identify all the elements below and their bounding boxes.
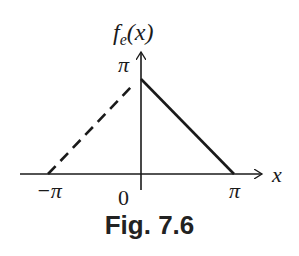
x-axis-label: x xyxy=(271,162,282,187)
x-tick-zero: 0 xyxy=(118,185,129,210)
y-tick-pi: π xyxy=(118,52,130,77)
x-tick-neg-pi: −π xyxy=(36,178,63,203)
x-tick-pi: π xyxy=(229,178,241,203)
dashed-extension-line xyxy=(48,86,132,174)
figure-caption: Fig. 7.6 xyxy=(0,210,299,241)
solid-function-line xyxy=(141,79,234,174)
y-axis-label: fe(x) xyxy=(113,19,153,48)
